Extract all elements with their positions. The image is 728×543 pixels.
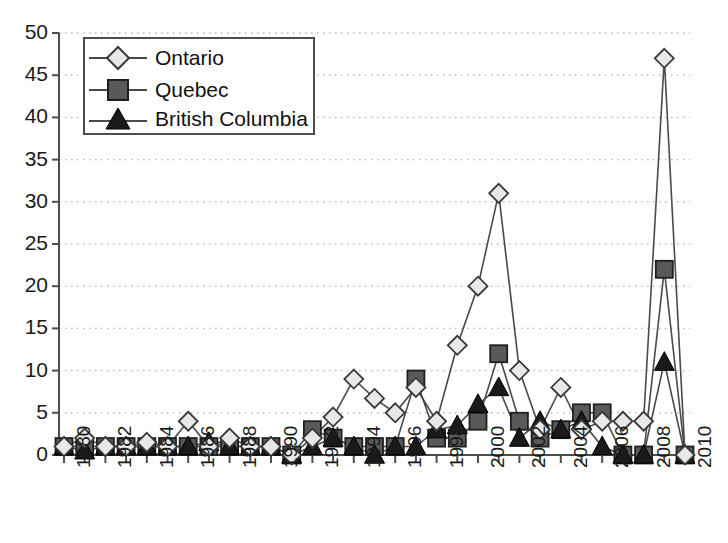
square-marker-icon xyxy=(85,74,151,106)
y-tick-label: 20 xyxy=(4,273,48,297)
legend-item-quebec: Quebec xyxy=(85,74,317,106)
y-tick-label: 10 xyxy=(4,358,48,382)
y-tick-label: 35 xyxy=(4,147,48,171)
x-tick-label: 2010 xyxy=(694,426,716,468)
legend-label: Ontario xyxy=(151,46,224,70)
x-tick-label: 2006 xyxy=(611,426,633,468)
chart-figure: 50454035302520151050 1980198219841986198… xyxy=(0,0,728,543)
diamond-marker-icon xyxy=(85,42,151,74)
y-tick-label: 50 xyxy=(4,20,48,44)
y-tick-label: 45 xyxy=(4,62,48,86)
data-point-marker xyxy=(656,261,673,278)
x-tick-label: 1994 xyxy=(363,426,385,468)
data-point-marker xyxy=(179,412,198,431)
data-point-marker xyxy=(551,378,570,397)
x-tick-label: 1982 xyxy=(114,426,136,468)
chart-legend: Ontario Quebec British Columbia xyxy=(83,37,315,135)
x-tick-label: 1980 xyxy=(73,426,95,468)
y-tick-label: 30 xyxy=(4,189,48,213)
x-tick-label: 2002 xyxy=(528,426,550,468)
legend-label: Quebec xyxy=(151,78,229,102)
data-point-marker xyxy=(654,352,674,371)
data-point-marker xyxy=(510,361,529,380)
data-point-marker xyxy=(655,49,674,68)
x-tick-label: 1996 xyxy=(404,426,426,468)
y-tick-label: 0 xyxy=(4,442,48,466)
y-tick-label: 40 xyxy=(4,104,48,128)
x-tick-label: 2000 xyxy=(487,426,509,468)
y-tick-label: 25 xyxy=(4,231,48,255)
x-tick-label: 1988 xyxy=(239,426,261,468)
data-point-marker xyxy=(489,184,508,203)
data-point-marker xyxy=(489,377,509,396)
y-tick-label: 15 xyxy=(4,315,48,339)
data-point-marker xyxy=(469,277,488,296)
x-tick-label: 2008 xyxy=(653,426,675,468)
triangle-marker-icon xyxy=(85,103,151,135)
x-tick-label: 1992 xyxy=(321,426,343,468)
y-tick-label: 5 xyxy=(4,400,48,424)
x-tick-label: 1984 xyxy=(156,426,178,468)
legend-item-ontario: Ontario xyxy=(85,42,317,74)
data-point-marker xyxy=(448,336,467,355)
x-tick-label: 1990 xyxy=(280,426,302,468)
x-tick-label: 2004 xyxy=(570,426,592,468)
x-tick-label: 1986 xyxy=(197,426,219,468)
data-point-marker xyxy=(490,345,507,362)
legend-label: British Columbia xyxy=(151,107,308,131)
data-point-marker xyxy=(470,413,487,430)
x-tick-label: 1998 xyxy=(446,426,468,468)
data-point-marker xyxy=(386,403,405,422)
legend-item-british-columbia: British Columbia xyxy=(85,103,317,135)
